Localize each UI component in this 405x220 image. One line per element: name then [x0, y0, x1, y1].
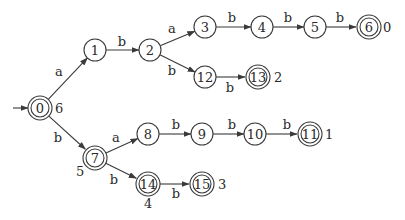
state-label: 7: [91, 151, 99, 166]
edge-12-13: b: [216, 77, 245, 95]
state-1: 1: [84, 39, 106, 61]
state-10: 10: [244, 123, 266, 145]
edge-arrow: [160, 31, 195, 46]
state-label: 3: [201, 20, 209, 35]
edge-2-12: b: [160, 55, 195, 78]
state-label: 5: [311, 20, 319, 35]
state-3: 3: [194, 16, 216, 38]
nodes-layer: 06123456012132758910111144153: [28, 15, 391, 211]
state-15: 153: [190, 172, 226, 196]
edge-label: b: [172, 117, 180, 132]
edge-14-15: b: [160, 184, 189, 201]
state-13: 132: [246, 65, 282, 89]
edge-label: b: [284, 10, 292, 25]
edge-2-3: a: [160, 21, 195, 46]
edge-label: b: [118, 34, 126, 49]
edge-arrow: [106, 139, 138, 154]
edge-label: a: [112, 130, 120, 145]
edge-label: b: [110, 172, 118, 187]
edge-7-8: a: [106, 130, 138, 153]
state-4: 4: [251, 16, 273, 38]
state-label: 12: [197, 70, 214, 85]
state-0: 06: [28, 96, 63, 120]
edge-3-4: b: [216, 10, 251, 27]
edge-arrow: [160, 55, 195, 72]
edge-label: b: [226, 80, 234, 95]
state-8: 8: [137, 123, 159, 145]
state-5: 5: [304, 16, 326, 38]
state-annotation: 4: [144, 196, 152, 211]
edge-1-2: b: [106, 34, 139, 50]
edge-9-10: b: [213, 117, 244, 134]
state-14: 144: [136, 172, 160, 211]
state-annotation: 5: [76, 164, 84, 179]
state-label: 11: [302, 127, 319, 142]
state-label: 4: [258, 20, 266, 35]
edge-5-6: b: [326, 10, 356, 27]
state-7: 75: [76, 146, 107, 179]
edge-0-7: b: [49, 116, 86, 149]
state-label: 13: [250, 70, 267, 85]
state-label: 9: [198, 127, 206, 142]
edge-10-11: b: [266, 117, 297, 134]
edge-label: a: [168, 21, 176, 36]
edge-4-5: b: [273, 10, 304, 27]
state-label: 10: [247, 127, 264, 142]
state-label: 1: [91, 43, 99, 58]
edge-label: b: [228, 117, 236, 132]
edge-label: b: [228, 10, 236, 25]
state-annotation: 6: [55, 101, 63, 116]
edge-7-14: b: [106, 163, 137, 187]
state-annotation: 3: [218, 177, 226, 192]
state-label: 0: [36, 101, 44, 116]
state-annotation: 2: [274, 70, 282, 85]
edge-0-1: a: [48, 58, 87, 99]
automaton-diagram: ababbbbbbabbbbb 061234560121327589101111…: [0, 0, 405, 220]
edge-label: b: [283, 117, 291, 132]
state-11: 111: [298, 122, 333, 146]
state-label: 8: [144, 127, 152, 142]
state-label: 6: [365, 20, 373, 35]
edge-label: b: [54, 130, 62, 145]
state-12: 12: [194, 66, 216, 88]
state-label: 2: [146, 43, 154, 58]
state-2: 2: [139, 39, 161, 61]
state-annotation: 1: [325, 127, 333, 142]
state-9: 9: [191, 123, 213, 145]
state-label: 14: [140, 177, 157, 192]
state-label: 15: [194, 177, 211, 192]
state-6: 60: [357, 15, 391, 39]
edge-8-9: b: [159, 117, 191, 134]
state-annotation: 0: [383, 20, 391, 35]
edge-label: b: [336, 10, 344, 25]
edge-label: a: [55, 64, 63, 79]
edge-label: b: [172, 186, 180, 201]
edge-label: b: [168, 63, 176, 78]
